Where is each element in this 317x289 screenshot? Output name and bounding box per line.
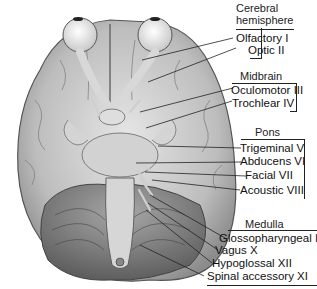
- label-trigeminal: Trigeminal V: [240, 142, 304, 155]
- label-oculomotor: Oculomotor III: [231, 84, 303, 97]
- box-bottom-edge: [250, 58, 262, 59]
- label-facial: Facial VII: [245, 169, 293, 182]
- box-bottom-edge: [290, 111, 297, 112]
- box-bottom-edge: [296, 139, 305, 140]
- label-spinal-accessory: Spinal accessory XI: [207, 270, 308, 283]
- box-right-edge: [296, 83, 297, 111]
- label-vagus: Vagus X: [215, 244, 258, 257]
- label-optic: Optic II: [248, 44, 284, 57]
- label-trochlear: Trochlear IV: [232, 97, 294, 110]
- box-right-edge: [261, 28, 262, 58]
- group-header-midbrain: Midbrain: [240, 70, 282, 82]
- group-header-cerebral-hemisphere: Cerebral: [236, 2, 278, 14]
- box-bottom-edge: [207, 285, 317, 286]
- group-rule: [241, 139, 296, 140]
- group-header-cerebral-hemisphere-line2: hemisphere: [236, 14, 293, 26]
- group-header-medulla: Medulla: [245, 218, 284, 230]
- group-rule: [228, 230, 317, 231]
- label-hypoglossal: Hypoglossal XII: [212, 257, 292, 270]
- label-abducens: Abducens VI: [240, 155, 305, 168]
- box-right-edge: [304, 139, 305, 199]
- group-header-pons: Pons: [255, 126, 280, 138]
- label-acoustic: Acoustic VIII: [240, 184, 304, 197]
- group-rule: [236, 29, 294, 30]
